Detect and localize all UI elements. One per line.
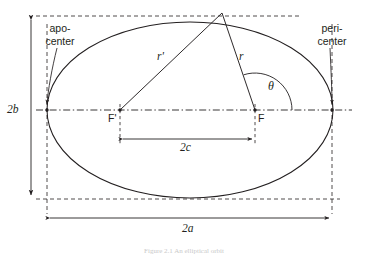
focus-left-label: F' (108, 112, 116, 124)
focal-distance-dimension-label: 2c (180, 141, 191, 153)
apocenter-label-line2: center (36, 35, 84, 48)
pericenter-label: peri- center (306, 22, 358, 47)
pericenter-label-line1: peri- (306, 22, 358, 35)
focus-right-point-marker (253, 108, 256, 111)
figure-caption: Figure 2.1 An elliptical orbit (0, 247, 368, 255)
theta-angle-label: θ (268, 80, 274, 92)
radius-r-label: r (239, 50, 243, 62)
focus-left-point-marker (118, 108, 121, 111)
apocenter-label-line1: apo- (36, 22, 84, 35)
semi-major-dimension-label: 2a (182, 222, 194, 234)
apocenter-point-marker (45, 108, 48, 111)
radius-vector-r-prime (120, 13, 222, 110)
apocenter-label: apo- center (36, 22, 84, 47)
focus-right-label: F (258, 112, 264, 124)
radius-r-prime-label: r' (157, 50, 164, 62)
orbit-diagram: apo- center peri- center F' F r' r θ 2b … (0, 0, 368, 256)
pericenter-point-marker (330, 108, 333, 111)
pericenter-label-line2: center (306, 35, 358, 48)
semi-minor-dimension-label: 2b (7, 103, 19, 115)
